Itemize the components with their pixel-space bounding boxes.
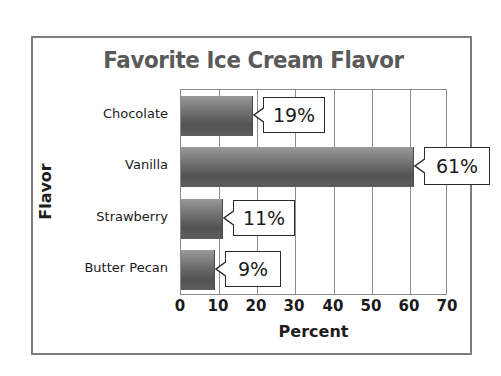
category-label: Vanilla xyxy=(125,157,176,172)
callout-pointer-icon xyxy=(253,106,265,124)
category-label: Chocolate xyxy=(103,106,176,121)
x-axis-title: Percent xyxy=(180,322,447,341)
callout-pointer-icon xyxy=(223,209,235,227)
gridline xyxy=(372,90,373,294)
data-label-callout: 11% xyxy=(233,200,295,236)
data-label-callout: 9% xyxy=(225,251,281,287)
data-label-callout: 61% xyxy=(424,147,490,185)
x-tick-label: 30 xyxy=(274,297,314,315)
bar xyxy=(181,199,223,239)
gridline xyxy=(334,90,335,294)
category-label: Strawberry xyxy=(96,209,176,224)
x-tick-label: 70 xyxy=(427,297,467,315)
x-tick-label: 10 xyxy=(198,297,238,315)
x-tick-label: 60 xyxy=(389,297,429,315)
category-label: Butter Pecan xyxy=(84,260,176,275)
callout-pointer-icon xyxy=(414,157,426,175)
chart-outer-frame: Favorite Ice Cream Flavor Flavor Chocola… xyxy=(31,36,472,355)
bar xyxy=(181,96,253,136)
bar xyxy=(181,147,414,187)
x-tick-label: 40 xyxy=(313,297,353,315)
chart-page: Favorite Ice Cream Flavor Flavor Chocola… xyxy=(0,0,501,376)
x-axis-tick-labels: 010203040506070 xyxy=(180,297,447,319)
callout-pointer-icon xyxy=(215,260,227,278)
data-label-callout: 19% xyxy=(263,97,325,133)
x-tick-label: 50 xyxy=(351,297,391,315)
gridline xyxy=(410,90,411,294)
category-axis-labels: ChocolateVanillaStrawberryButter Pecan xyxy=(33,89,176,295)
chart-title: Favorite Ice Cream Flavor xyxy=(48,47,458,73)
x-tick-label: 20 xyxy=(236,297,276,315)
bar xyxy=(181,250,215,290)
x-tick-label: 0 xyxy=(160,297,200,315)
